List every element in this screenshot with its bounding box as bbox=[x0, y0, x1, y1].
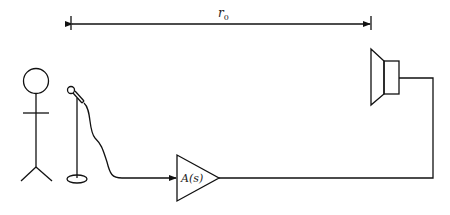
amplifier-label: A(s) bbox=[180, 172, 203, 185]
distance-dimension: r0 bbox=[71, 6, 371, 30]
amplifier-icon: A(s) bbox=[177, 155, 219, 201]
distance-label: r0 bbox=[218, 6, 229, 22]
mic-cable bbox=[84, 103, 176, 178]
microphone-icon bbox=[67, 87, 87, 184]
person-icon bbox=[21, 69, 52, 182]
feedback-diagram: r0 A(s) bbox=[0, 0, 450, 215]
speaker-wire bbox=[219, 78, 433, 178]
loudspeaker-icon bbox=[371, 49, 399, 105]
